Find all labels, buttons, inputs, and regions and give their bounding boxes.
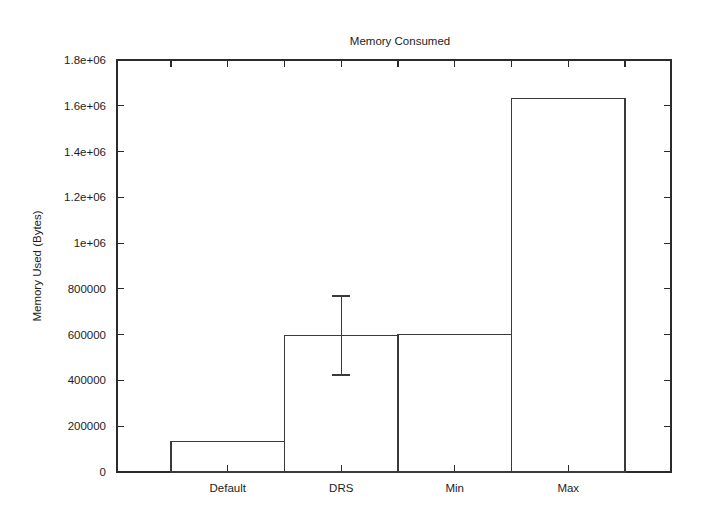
y-tick-label: 1.4e+06 — [64, 146, 106, 158]
chart-background — [0, 0, 708, 522]
y-tick-label: 400000 — [68, 374, 106, 386]
y-tick-label: 200000 — [68, 420, 106, 432]
y-tick-label: 1e+06 — [74, 237, 106, 249]
y-axis-title: Memory Used (Bytes) — [31, 210, 43, 321]
x-tick-label: Default — [210, 482, 247, 494]
y-tick-label: 1.6e+06 — [64, 100, 106, 112]
y-tick-label: 600000 — [68, 329, 106, 341]
x-tick-label: Max — [557, 482, 579, 494]
y-tick-label: 0 — [100, 466, 106, 478]
x-tick-label: DRS — [329, 482, 354, 494]
y-tick-label: 800000 — [68, 283, 106, 295]
chart-container: Memory Consumed Memory Used (Bytes) 0200… — [0, 0, 708, 522]
y-tick-label: 1.8e+06 — [64, 54, 106, 66]
memory-consumed-bar-chart: Memory Consumed Memory Used (Bytes) 0200… — [0, 0, 708, 522]
y-tick-label: 1.2e+06 — [64, 191, 106, 203]
x-tick-label: Min — [445, 482, 464, 494]
chart-title: Memory Consumed — [350, 35, 450, 47]
